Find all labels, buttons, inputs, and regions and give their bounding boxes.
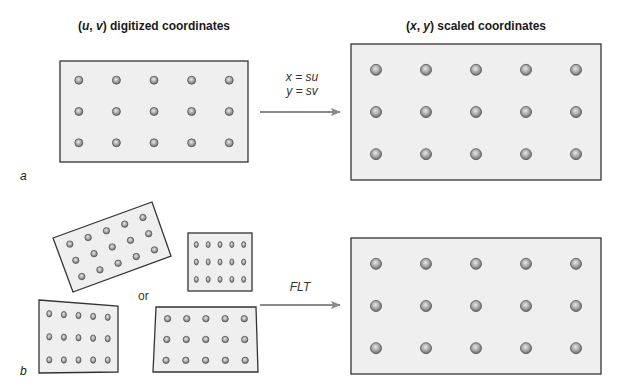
marker-dot bbox=[222, 336, 228, 342]
marker-dot bbox=[61, 311, 66, 317]
marker-dot bbox=[222, 357, 228, 363]
marker-dot bbox=[571, 258, 582, 269]
marker-dot bbox=[203, 336, 209, 342]
marker-dot bbox=[421, 149, 432, 160]
marker-dot bbox=[571, 107, 582, 118]
marker-dot bbox=[47, 311, 52, 317]
or-label: or bbox=[138, 289, 149, 303]
marker-dot bbox=[202, 357, 208, 363]
marker-dot bbox=[218, 242, 222, 248]
marker-dot bbox=[75, 139, 83, 147]
var-v: v bbox=[96, 19, 103, 33]
panel-label-b: b bbox=[20, 364, 27, 378]
marker-dot bbox=[150, 108, 158, 116]
marker-dot bbox=[371, 107, 382, 118]
marker-dot bbox=[47, 357, 52, 363]
marker-dot bbox=[242, 336, 248, 342]
marker-dot bbox=[76, 312, 81, 318]
marker-dot bbox=[471, 149, 482, 160]
marker-dot bbox=[105, 357, 110, 363]
marker-dot bbox=[230, 259, 234, 265]
marker-dot bbox=[105, 314, 110, 320]
marker-dot bbox=[371, 258, 382, 269]
marker-dot bbox=[183, 357, 189, 363]
marker-dot bbox=[206, 242, 210, 248]
marker-dot bbox=[521, 149, 532, 160]
marker-dot bbox=[471, 301, 482, 312]
marker-dot bbox=[75, 108, 83, 116]
marker-dot bbox=[61, 334, 66, 340]
marker-dot bbox=[164, 336, 170, 342]
digitized-grid bbox=[60, 61, 248, 162]
marker-dot bbox=[91, 250, 97, 256]
scaled-grid-b bbox=[351, 238, 601, 374]
marker-dot bbox=[133, 253, 139, 259]
marker-dot bbox=[521, 64, 532, 75]
scaled-grid-a bbox=[351, 44, 601, 180]
marker-dot bbox=[150, 139, 158, 147]
marker-dot bbox=[421, 301, 432, 312]
marker-dot bbox=[571, 149, 582, 160]
marker-dot bbox=[67, 241, 73, 247]
keystone-left-grid bbox=[39, 300, 118, 373]
marker-dot bbox=[225, 76, 233, 84]
panel-label-a: a bbox=[20, 169, 27, 183]
marker-dot bbox=[115, 260, 121, 266]
title-scaled: (x, y) scaled coordinates bbox=[406, 19, 546, 33]
marker-dot bbox=[471, 64, 482, 75]
marker-dot bbox=[127, 237, 133, 243]
marker-dot bbox=[471, 258, 482, 269]
marker-dot bbox=[112, 139, 120, 147]
marker-dot bbox=[73, 257, 79, 263]
marker-dot bbox=[183, 336, 189, 342]
marker-dot bbox=[471, 107, 482, 118]
marker-dot bbox=[91, 313, 96, 319]
marker-dot bbox=[421, 258, 432, 269]
diagram-canvas bbox=[0, 0, 620, 389]
marker-dot bbox=[521, 107, 532, 118]
marker-dot bbox=[242, 259, 246, 265]
marker-dot bbox=[421, 64, 432, 75]
marker-dot bbox=[242, 357, 248, 363]
marker-dot bbox=[112, 76, 120, 84]
marker-dot bbox=[421, 343, 432, 354]
marker-dot bbox=[203, 316, 209, 322]
marker-dot bbox=[371, 64, 382, 75]
marker-dot bbox=[75, 76, 83, 84]
marker-dot bbox=[145, 230, 151, 236]
marker-dot bbox=[371, 149, 382, 160]
rotated-grid bbox=[53, 202, 171, 292]
marker-dot bbox=[471, 343, 482, 354]
marker-dot bbox=[521, 301, 532, 312]
marker-dot bbox=[225, 139, 233, 147]
marker-dot bbox=[112, 108, 120, 116]
var-x: x bbox=[410, 19, 417, 33]
marker-dot bbox=[225, 108, 233, 116]
title-text: digitized coordinates bbox=[107, 19, 230, 33]
marker-dot bbox=[164, 316, 170, 322]
title-text: scaled coordinates bbox=[434, 19, 546, 33]
marker-dot bbox=[47, 334, 52, 340]
marker-dot bbox=[241, 316, 247, 322]
marker-dot bbox=[571, 301, 582, 312]
marker-dot bbox=[371, 343, 382, 354]
compressed-grid bbox=[188, 233, 252, 291]
marker-dot bbox=[571, 343, 582, 354]
marker-dot bbox=[194, 259, 198, 265]
marker-dot bbox=[105, 335, 110, 341]
marker-dot bbox=[194, 242, 198, 248]
marker-dot bbox=[97, 267, 103, 273]
marker-dot bbox=[188, 139, 196, 147]
marker-dot bbox=[151, 247, 157, 253]
marker-dot bbox=[521, 258, 532, 269]
marker-dot bbox=[521, 343, 532, 354]
marker-dot bbox=[222, 316, 228, 322]
marker-dot bbox=[76, 335, 81, 341]
marker-dot bbox=[194, 276, 198, 282]
marker-dot bbox=[121, 221, 127, 227]
flt-label: FLT bbox=[290, 280, 310, 294]
marker-dot bbox=[218, 276, 222, 282]
marker-dot bbox=[242, 276, 246, 282]
marker-dot bbox=[150, 76, 158, 84]
keystone-right-grid bbox=[153, 307, 258, 372]
